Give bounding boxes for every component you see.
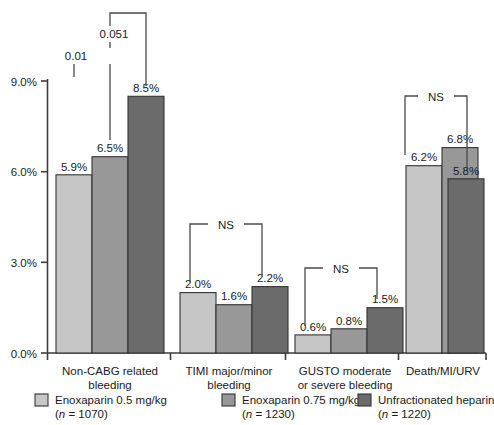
chart-legend: Enoxaparin 0.5 mg/kg (n = 1070) Enoxapar… <box>35 394 494 420</box>
bar-g3-s0 <box>406 166 442 353</box>
bar-label-g0-s1: 6.5% <box>97 142 123 154</box>
bracket-label-g1-ns: NS <box>218 219 234 231</box>
category-label-3-line-0: Death/MI/URV <box>406 365 480 377</box>
chart-canvas: 9.0% 6.0% 3.0% 0.0% 5.9% 6.5% 8.5% <box>0 0 494 425</box>
category-label-2-line-1: or severe bleeding <box>298 379 393 391</box>
category-label-0-line-0: Non-CABG related <box>62 365 158 377</box>
category-labels: Non-CABG related bleeding TIMI major/min… <box>62 365 480 391</box>
bar-g1-s0 <box>180 293 216 353</box>
bar-g2-s1 <box>331 329 367 353</box>
legend-label-unfractionated-heparin: Unfractionated heparin <box>378 394 494 406</box>
legend-n-unfractionated-heparin: (n = 1220) <box>378 408 431 420</box>
bar-label-g1-s2: 2.2% <box>257 272 283 284</box>
x-axis <box>48 353 487 360</box>
bar-g0-s1 <box>92 157 128 353</box>
category-label-2-line-0: GUSTO moderate <box>299 365 391 377</box>
bar-group-gusto-moderate-or-severe-bleeding: 0.6% 0.8% 1.5% <box>295 293 403 353</box>
significance-bracket-g0-0_01: 0.01 <box>56 48 114 140</box>
y-tick-label-6: 6.0% <box>11 166 37 178</box>
legend-label-enoxaparin-0-5: Enoxaparin 0.5 mg/kg <box>55 394 167 406</box>
legend-item-unfractionated-heparin[interactable]: Unfractionated heparin (n = 1220) <box>358 394 494 420</box>
category-label-0-line-1: bleeding <box>88 379 131 391</box>
bar-g0-s2 <box>128 96 164 353</box>
legend-n-enoxaparin-0-75: (n = 1230) <box>242 408 295 420</box>
bar-label-g2-s0: 0.6% <box>300 321 326 333</box>
bar-label-g2-s1: 0.8% <box>336 315 362 327</box>
legend-label-enoxaparin-0-75: Enoxaparin 0.75 mg/kg <box>242 394 360 406</box>
legend-n-value-0: = 1070 <box>65 408 104 420</box>
bar-label-g3-s0: 6.2% <box>411 151 437 163</box>
bar-label-g2-s2: 1.5% <box>372 293 398 305</box>
bracket-label-g2-ns: NS <box>333 263 349 275</box>
y-tick-label-0: 0.0% <box>11 348 37 360</box>
significance-bracket-g1-ns: NS <box>190 217 262 282</box>
bracket-label-g3-ns: NS <box>428 91 444 103</box>
legend-swatch-enoxaparin-0-75 <box>222 394 235 406</box>
legend-n-enoxaparin-0-5: (n = 1070) <box>55 408 108 420</box>
bar-label-g1-s1: 1.6% <box>221 290 247 302</box>
bar-label-g3-s2: 5.8% <box>453 165 479 177</box>
y-tick-label-3: 3.0% <box>11 257 37 269</box>
legend-n-value-2: = 1220 <box>388 408 427 420</box>
bar-g1-s2 <box>252 287 288 353</box>
category-label-1-line-0: TIMI major/minor <box>186 365 273 377</box>
bar-group-timi-major-minor-bleeding: 2.0% 1.6% 2.2% <box>180 272 288 353</box>
bracket-label-g0-0_01: 0.01 <box>65 50 87 62</box>
bar-label-g0-s0: 5.9% <box>61 161 87 173</box>
bar-group-death-mi-urv-third: 5.8% <box>448 165 484 354</box>
bar-g2-s0 <box>295 335 331 353</box>
y-tick-label-9: 9.0% <box>11 76 37 88</box>
legend-item-enoxaparin-0-75[interactable]: Enoxaparin 0.75 mg/kg (n = 1230) <box>222 394 360 420</box>
category-label-1-line-1: bleeding <box>207 379 250 391</box>
bar-g0-s0 <box>56 175 92 353</box>
bar-g3-s2 <box>448 179 484 353</box>
bar-label-g3-s1: 6.8% <box>447 133 473 145</box>
y-axis: 9.0% 6.0% 3.0% 0.0% <box>11 76 48 360</box>
bar-chart-figure: 9.0% 6.0% 3.0% 0.0% 5.9% 6.5% 8.5% <box>0 0 494 425</box>
legend-item-enoxaparin-0-5[interactable]: Enoxaparin 0.5 mg/kg (n = 1070) <box>35 394 167 420</box>
legend-swatch-unfractionated-heparin <box>358 394 371 406</box>
bar-label-g1-s0: 2.0% <box>185 278 211 290</box>
legend-n-value-1: = 1230 <box>252 408 291 420</box>
bar-g2-s2 <box>367 308 403 353</box>
bracket-label-g0-0_051: 0.051 <box>100 28 129 40</box>
legend-swatch-enoxaparin-0-5 <box>35 394 48 406</box>
bar-g1-s1 <box>216 305 252 353</box>
